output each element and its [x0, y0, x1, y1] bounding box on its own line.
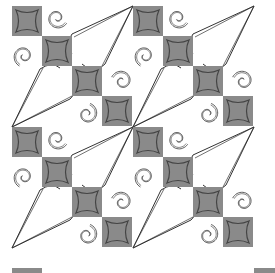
spiral-swirl	[112, 71, 130, 87]
spiral-swirl	[202, 104, 218, 123]
spiral-swirl	[170, 12, 188, 28]
spiral-swirl-inner	[50, 134, 65, 148]
kite-line	[74, 6, 133, 37]
spiral-swirl-inner	[82, 105, 96, 121]
spiral-swirl-inner	[113, 194, 129, 208]
kite-line	[223, 6, 254, 66]
spiral-swirl-inner	[234, 73, 250, 87]
spiral-swirl	[14, 169, 30, 187]
grey-square-partial	[12, 268, 42, 273]
kite-line	[133, 76, 198, 127]
kite-line	[133, 217, 193, 248]
kite-line	[203, 6, 254, 70]
spiral-swirl-inner	[50, 13, 65, 27]
kite-line	[133, 68, 164, 127]
kite-line	[68, 127, 133, 175]
spiral-swirl-inner	[137, 49, 151, 64]
kite-line	[102, 6, 133, 66]
spiral-swirl-inner	[137, 170, 151, 185]
kite-line	[189, 6, 254, 54]
kite-line	[12, 189, 43, 248]
spiral-swirl	[233, 192, 251, 208]
kite-line	[74, 127, 133, 158]
kite-line	[195, 6, 254, 37]
kite-line	[12, 217, 72, 248]
spiral-swirl	[81, 104, 97, 123]
kite-line	[12, 197, 77, 248]
spiral-swirl	[202, 225, 218, 244]
kite-line	[12, 68, 43, 127]
quilt-pattern-canvas	[0, 0, 275, 273]
spiral-swirl-inner	[16, 170, 30, 185]
spiral-swirl	[49, 12, 67, 28]
kite-line	[68, 6, 133, 54]
kite-line	[133, 197, 198, 248]
spiral-swirl-inner	[234, 194, 250, 208]
kite-line	[189, 127, 254, 175]
spiral-swirl	[170, 133, 188, 149]
spiral-swirl	[81, 225, 97, 244]
kite-line	[133, 189, 164, 248]
kite-line	[133, 65, 181, 127]
kite-line	[12, 65, 60, 127]
spiral-swirl-inner	[203, 226, 217, 242]
kite-line	[133, 186, 181, 248]
kite-line	[195, 127, 254, 158]
spiral-swirl-inner	[203, 105, 217, 121]
spiral-swirl	[233, 71, 251, 87]
kite-line	[102, 127, 133, 187]
spiral-swirl-inner	[16, 49, 30, 64]
spiral-swirl-inner	[82, 226, 96, 242]
kite-line	[12, 76, 77, 127]
kite-line	[82, 127, 133, 191]
spiral-swirl	[135, 169, 151, 187]
kite-line	[223, 127, 254, 187]
spiral-swirl	[135, 48, 151, 66]
grey-square-partial	[254, 268, 275, 273]
kite-line	[12, 96, 72, 127]
spiral-swirl-inner	[171, 13, 186, 27]
spiral-swirl	[14, 48, 30, 66]
spiral-swirl-inner	[171, 134, 186, 148]
spiral-swirl-inner	[113, 73, 129, 87]
spiral-swirl	[49, 133, 67, 149]
spiral-swirl	[112, 192, 130, 208]
kite-line	[82, 6, 133, 70]
kite-line	[203, 127, 254, 191]
kite-line	[12, 186, 60, 248]
kite-line	[133, 96, 193, 127]
